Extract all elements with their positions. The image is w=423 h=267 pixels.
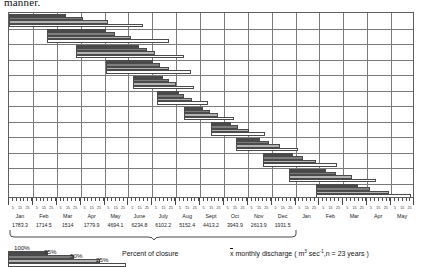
bar-nov-25pct: [289, 179, 375, 182]
bar-june-25pct: [157, 101, 207, 104]
day-label: 5: [227, 205, 229, 211]
horizontal-gridline: [9, 137, 413, 138]
vertical-gridline: [248, 13, 249, 197]
bar-aug-25pct: [211, 132, 265, 135]
day-tick: [159, 198, 160, 201]
day-tick: [374, 198, 375, 201]
day-tick: [63, 198, 64, 201]
day-tick: [322, 198, 323, 201]
bar-mar-25pct: [76, 55, 183, 58]
day-tick: [409, 198, 410, 201]
day-tick: [334, 198, 335, 201]
day-tick: [55, 198, 56, 201]
month-label-may-16: May: [397, 212, 407, 220]
legend-label-100pct: 100%: [14, 244, 30, 251]
day-tick: [270, 198, 271, 201]
day-label: 5: [370, 205, 372, 211]
day-tick: [123, 198, 124, 201]
bar-oct-25pct: [263, 163, 337, 166]
day-tick: [207, 198, 208, 201]
day-tick: [242, 198, 243, 201]
day-label: 15: [90, 205, 94, 211]
day-label: 25: [408, 205, 412, 211]
day-tick: [75, 198, 76, 201]
day-tick: [40, 198, 41, 201]
day-tick: [246, 198, 247, 201]
day-tick: [370, 198, 371, 201]
horizontal-gridline: [9, 91, 413, 92]
day-label: 25: [217, 205, 221, 211]
day-label: 25: [312, 205, 316, 211]
vertical-gridline: [367, 13, 368, 197]
day-tick: [84, 198, 85, 201]
day-tick: [413, 198, 414, 201]
day-label: 5: [203, 205, 205, 211]
day-tick: [198, 198, 199, 201]
vertical-gridline: [176, 13, 177, 197]
day-tick: [127, 198, 128, 201]
day-tick: [350, 198, 351, 201]
horizontal-gridline: [9, 153, 413, 154]
day-tick: [218, 198, 219, 201]
legend-label-75pct: 75%: [44, 248, 56, 255]
day-tick: [194, 198, 195, 201]
day-tick: [111, 198, 112, 201]
day-label: 5: [346, 205, 348, 211]
day-label: 5: [36, 205, 38, 211]
discharge-caption-main: monthly discharge ( m: [234, 250, 305, 257]
day-tick: [365, 198, 366, 201]
day-tick: [31, 198, 32, 201]
chart-plot-area: [8, 12, 414, 198]
day-tick: [36, 198, 37, 201]
day-tick: [406, 198, 407, 201]
discharge-caption: x monthly discharge ( m3 sec-1,n = 23 ye…: [230, 249, 369, 257]
horizontal-gridline: [9, 44, 413, 45]
discharge-value-june: 6234.8: [131, 221, 147, 229]
day-tick: [151, 198, 152, 201]
day-label: 25: [49, 205, 53, 211]
day-label: 5: [60, 205, 62, 211]
day-tick: [179, 198, 180, 201]
x-axis-month-labels: JanFebMarAprMayJuneJulyAugSeptOctNovDecJ…: [8, 212, 414, 221]
bar-may-25pct: [133, 86, 194, 89]
day-tick: [103, 198, 104, 201]
day-tick: [362, 198, 363, 201]
month-label-nov-10: Nov: [254, 212, 264, 220]
day-tick: [342, 198, 343, 201]
day-tick: [191, 198, 192, 201]
vertical-gridline: [343, 13, 344, 197]
day-tick: [12, 198, 13, 201]
x-bar-symbol: x: [230, 250, 234, 257]
day-tick: [51, 198, 52, 201]
day-tick: [298, 198, 299, 201]
day-tick: [147, 198, 148, 201]
day-label: 25: [264, 205, 268, 211]
day-tick: [262, 198, 263, 201]
day-label: 15: [114, 205, 118, 211]
day-label: 15: [400, 205, 404, 211]
day-tick: [318, 198, 319, 201]
day-label: 25: [97, 205, 101, 211]
day-tick: [20, 198, 21, 201]
day-tick: [386, 198, 387, 201]
day-tick: [255, 198, 256, 201]
legend-label-50pct: 50%: [70, 252, 82, 259]
day-label: 5: [155, 205, 157, 211]
day-tick: [174, 198, 175, 201]
day-tick: [235, 198, 236, 201]
day-tick: [306, 198, 307, 201]
day-label: 15: [281, 205, 285, 211]
vertical-gridline: [391, 13, 392, 197]
day-tick: [310, 198, 311, 201]
month-label-june-5: June: [133, 212, 145, 220]
day-tick: [258, 198, 259, 201]
month-label-apr-3: Apr: [87, 212, 95, 220]
day-label: 15: [42, 205, 46, 211]
horizontal-gridline: [9, 106, 413, 107]
cut-off-body-text: manner.: [4, 0, 41, 6]
day-label: 25: [360, 205, 364, 211]
day-label: 25: [193, 205, 197, 211]
day-tick: [135, 198, 136, 201]
day-label: 5: [83, 205, 85, 211]
day-tick: [314, 198, 315, 201]
